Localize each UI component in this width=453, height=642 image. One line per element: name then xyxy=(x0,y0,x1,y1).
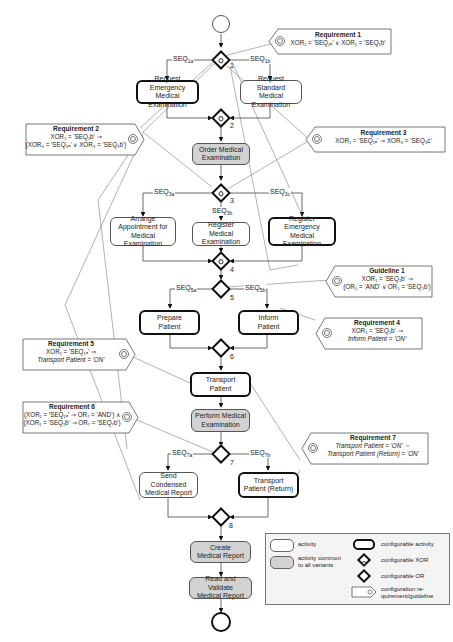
legend-or-icon xyxy=(357,569,371,583)
legend-activity-shape xyxy=(270,539,294,552)
requirement-text-2: Transport Patient (Return) = 'ON' xyxy=(317,450,429,458)
activity-read-validate-report[interactable]: Read and Validate Medical Report xyxy=(189,577,252,599)
requirement-4[interactable]: Requirement 4 XOR₁ = 'SEQ₁b' ⇒ Inform Pa… xyxy=(315,317,423,350)
requirement-2[interactable]: Requirement 2 XOR₁ = 'SEQ₁b' ⇒ (XOR₃ = '… xyxy=(25,123,145,156)
requirement-text-1: XOR₁ = 'SEQ₁b' ⇒ xyxy=(25,133,127,141)
requirement-7[interactable]: Requirement 7 Transport Patient = 'ON' ⇔… xyxy=(301,432,429,465)
legend-common-label: activity common to all variants xyxy=(298,555,341,569)
gateway-label-6: 6 xyxy=(230,353,234,360)
guideline-1[interactable]: Guideline 1 XOR₁ = 'SEQ₁b' ⇒ (OR₅ = 'AND… xyxy=(325,265,433,298)
activity-register-emergency-examination[interactable]: Register Emergency Medical Examination xyxy=(268,217,336,246)
requirement-text-2: Inform Patient = 'ON' xyxy=(331,335,423,343)
requirement-title: Requirement 5 xyxy=(22,340,120,348)
activity-request-standard-examination[interactable]: Request Standard Medical Examination xyxy=(240,80,302,104)
guideline-text-1: XOR₁ = 'SEQ₁b' ⇒ xyxy=(341,275,433,283)
requirement-6[interactable]: Requirement 6 (XOR₁ = 'SEQ₁ₐ' ⇒ OR₇ = 'A… xyxy=(22,401,139,434)
requirement-text-1: XOR₁ = 'SEQ₁ₐ' ⇒ xyxy=(22,348,120,356)
requirement-1[interactable]: Requirement 1 XOR₁ = 'SEQ₁ₐ' ∨ XOR₁ = 'S… xyxy=(268,28,392,55)
requirement-text: XOR₁ = 'SEQ₁ₐ' ⇒ XOR₃ = 'SEQ₃c' xyxy=(323,137,444,145)
gateway-label-7: 7 xyxy=(230,459,234,466)
requirement-title: Requirement 7 xyxy=(317,434,429,442)
activity-prepare-patient[interactable]: Prepare Patient xyxy=(139,310,200,335)
activity-perform-medical-examination[interactable]: Perform Medical Examination xyxy=(191,409,250,432)
requirement-title: Requirement 4 xyxy=(331,319,423,327)
requirement-5[interactable]: Requirement 5 XOR₁ = 'SEQ₁ₐ' ⇒ Transport… xyxy=(22,338,136,371)
seq-3a-label: SEQ3a xyxy=(153,188,175,197)
legend-requirement-icon xyxy=(351,586,377,598)
requirement-text-2: (XOR₁ = 'SEQ₁b' ⇒ OR₇ = 'SEQ₇b') xyxy=(22,419,122,427)
legend-cfg-activity-label: configurable activity xyxy=(381,541,434,548)
legend-common-shape xyxy=(270,556,294,569)
seq-7a-label: SEQ7a xyxy=(171,449,193,458)
gateway-label-8: 8 xyxy=(229,522,233,529)
legend: activity activity common to all variants… xyxy=(265,533,450,605)
requirement-3[interactable]: Requirement 3 XOR₁ = 'SEQ₁ₐ' ⇒ XOR₃ = 'S… xyxy=(305,126,446,153)
seq-1a-label: SEQ1a xyxy=(172,55,194,64)
seq-5b-label: SEQ5b xyxy=(244,284,266,293)
gateway-label-3: 3 xyxy=(230,197,234,204)
requirement-text: XOR₁ = 'SEQ₁ₐ' ∨ XOR₁ = 'SEQ₁b' xyxy=(286,39,390,47)
requirement-text-2: Transport Patient = 'ON' xyxy=(22,356,120,364)
requirement-text-1: (XOR₁ = 'SEQ₁ₐ' ⇒ OR₇ = 'AND') ∧ xyxy=(22,411,122,419)
requirement-title: Requirement 3 xyxy=(323,129,444,137)
activity-transport-patient[interactable]: Transport Patient xyxy=(190,372,251,397)
requirement-text-1: XOR₁ = 'SEQ₁b' ⇒ xyxy=(331,327,423,335)
activity-inform-patient[interactable]: Inform Patient xyxy=(238,310,299,335)
seq-3b-label: SEQ3b xyxy=(211,207,233,216)
legend-cfg-requirement-label: configuration re- quirement/guideline xyxy=(381,586,433,600)
guideline-text-2: (OR₅ = 'AND' ∨ OR₅ = 'SEQ₅b') xyxy=(341,283,433,291)
seq-3c-label: SEQ3c xyxy=(269,188,291,197)
requirement-title: Requirement 2 xyxy=(25,125,127,133)
requirement-text-1: Transport Patient = 'ON' ⇔ xyxy=(317,442,429,450)
legend-cfg-xor-label: configurable XOR xyxy=(381,557,428,564)
guideline-title: Guideline 1 xyxy=(341,267,433,275)
gateway-label-2: 2 xyxy=(230,122,234,129)
activity-order-medical-examination[interactable]: Order Medical Examination xyxy=(192,143,250,165)
activity-send-condensed-report[interactable]: Send Condensed Medical Report xyxy=(139,472,198,498)
activity-request-emergency-examination[interactable]: Request Emergency Medical Examination xyxy=(136,80,199,104)
activity-create-medical-report[interactable]: Create Medical Report xyxy=(190,541,251,563)
end-event xyxy=(211,612,231,632)
activity-register-medical-examination[interactable]: Register Medical Examination xyxy=(192,222,250,246)
activity-arrange-appointment[interactable]: Arrange Appointment for Medical Examinat… xyxy=(110,217,176,246)
legend-cfg-or-label: configurable OR xyxy=(381,573,424,580)
seq-1b-label: SEQ1b xyxy=(249,55,271,64)
seq-5a-label: SEQ5a xyxy=(175,284,197,293)
gateway-label-5: 5 xyxy=(230,294,234,301)
legend-activity-label: activity xyxy=(298,541,316,548)
requirement-title: Requirement 6 xyxy=(22,403,122,411)
activity-transport-patient-return[interactable]: Transport Patient (Return) xyxy=(238,472,299,498)
requirement-title: Requirement 1 xyxy=(286,31,390,39)
legend-xor-icon xyxy=(357,553,371,567)
requirement-text-2: (XOR₃ = 'SEQ₃ₐ' ∨ XOR₃ = 'SEQ₃b') xyxy=(25,141,127,149)
seq-7b-label: SEQ7b xyxy=(249,449,271,458)
gateway-label-1: 1 xyxy=(230,62,234,69)
start-event xyxy=(212,15,230,33)
gateway-label-4: 4 xyxy=(230,266,234,273)
legend-cfg-activity-shape xyxy=(353,539,375,550)
